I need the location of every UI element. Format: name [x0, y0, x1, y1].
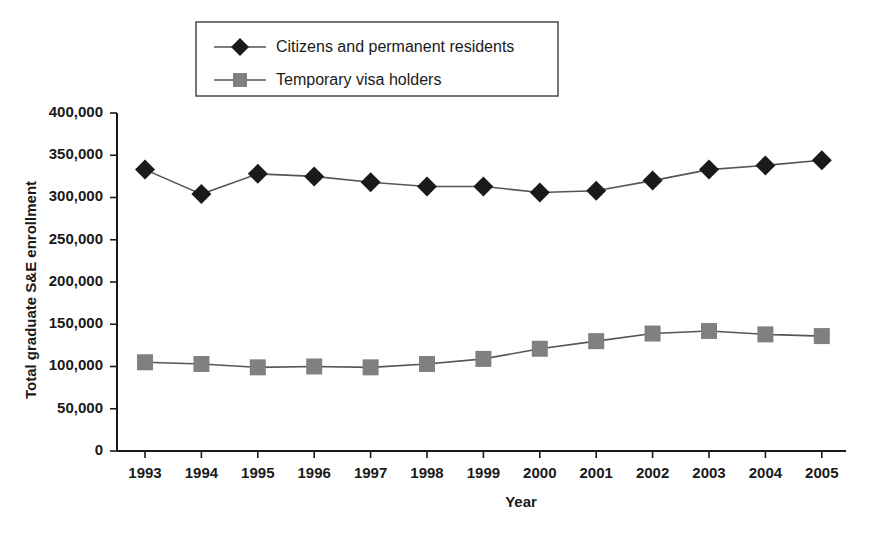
data-point-marker [306, 359, 322, 375]
y-tick-label: 300,000 [49, 187, 103, 204]
data-point-marker [757, 326, 773, 342]
data-point-marker [701, 323, 717, 339]
square-marker-icon [233, 73, 247, 87]
data-point-marker [137, 354, 153, 370]
x-tick-label: 1993 [128, 464, 161, 481]
x-tick-label: 1996 [298, 464, 331, 481]
y-tick-label: 100,000 [49, 356, 103, 373]
data-point-marker [193, 356, 209, 372]
data-point-marker [588, 333, 604, 349]
data-point-marker [814, 328, 830, 344]
y-axis-tick-labels: 050,000100,000150,000200,000250,000300,0… [49, 103, 103, 458]
y-tick-label: 250,000 [49, 230, 103, 247]
x-tick-label: 2004 [749, 464, 783, 481]
x-tick-label: 2001 [580, 464, 613, 481]
x-tick-label: 1995 [241, 464, 274, 481]
data-point-marker [532, 341, 548, 357]
line-chart: 050,000100,000150,000200,000250,000300,0… [0, 0, 873, 542]
y-tick-label: 0 [95, 441, 103, 458]
x-tick-label: 2005 [805, 464, 838, 481]
y-tick-label: 400,000 [49, 103, 103, 120]
data-point-marker [645, 326, 661, 342]
x-tick-label: 2002 [636, 464, 669, 481]
data-point-marker [250, 359, 266, 375]
legend: Citizens and permanent residents Tempora… [196, 22, 558, 96]
y-tick-label: 200,000 [49, 272, 103, 289]
y-axis-title: Total graduate S&E enrollment [22, 181, 39, 399]
x-tick-label: 2003 [692, 464, 725, 481]
data-point-marker [419, 356, 435, 372]
data-point-marker [475, 351, 491, 367]
x-axis-title: Year [505, 493, 537, 510]
y-tick-label: 150,000 [49, 314, 103, 331]
legend-label-temporary: Temporary visa holders [276, 71, 441, 88]
y-tick-label: 350,000 [49, 145, 103, 162]
x-tick-label: 1998 [410, 464, 443, 481]
y-tick-label: 50,000 [57, 399, 103, 416]
x-tick-label: 1997 [354, 464, 387, 481]
legend-label-citizens: Citizens and permanent residents [276, 38, 514, 55]
data-point-marker [363, 359, 379, 375]
chart-container: 050,000100,000150,000200,000250,000300,0… [0, 0, 873, 542]
x-tick-label: 1999 [467, 464, 500, 481]
x-tick-label: 2000 [523, 464, 556, 481]
x-tick-label: 1994 [185, 464, 219, 481]
